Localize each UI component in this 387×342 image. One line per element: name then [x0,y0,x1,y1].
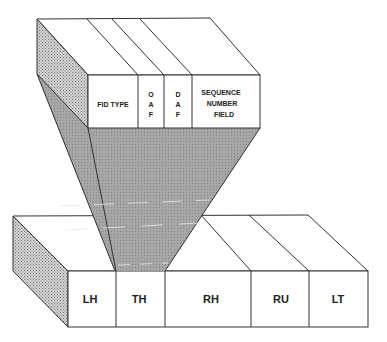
field-label-rh: RH [203,293,219,305]
seq-line-2: NUMBER [207,100,238,107]
field-label-fid-type: FID TYPE [97,101,129,108]
field-label-lt: LT [332,293,345,305]
seq-line-1: SEQUENCE [201,89,241,97]
oaf-line-1: O [148,91,154,98]
oaf-line-3: F [149,111,154,118]
oaf-line-2: A [148,101,153,108]
field-label-th: TH [132,293,147,305]
daf-line-1: D [175,91,180,98]
seq-line-3: FIELD [214,111,234,118]
daf-line-2: A [175,101,180,108]
field-label-ru: RU [273,293,289,305]
field-label-daf: D A F [175,91,180,118]
field-label-lh: LH [83,293,98,305]
daf-line-3: F [176,111,181,118]
diagram-canvas: FID TYPE O A F D A F SEQUENCE NUMBER FIE… [0,0,387,342]
